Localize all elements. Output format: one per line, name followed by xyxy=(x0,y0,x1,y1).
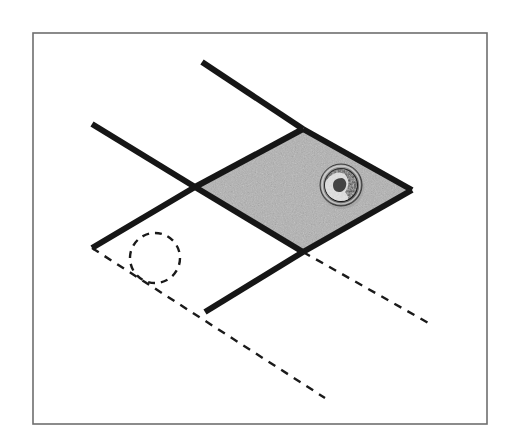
figure-container xyxy=(0,0,518,446)
diagram-canvas xyxy=(0,0,518,446)
